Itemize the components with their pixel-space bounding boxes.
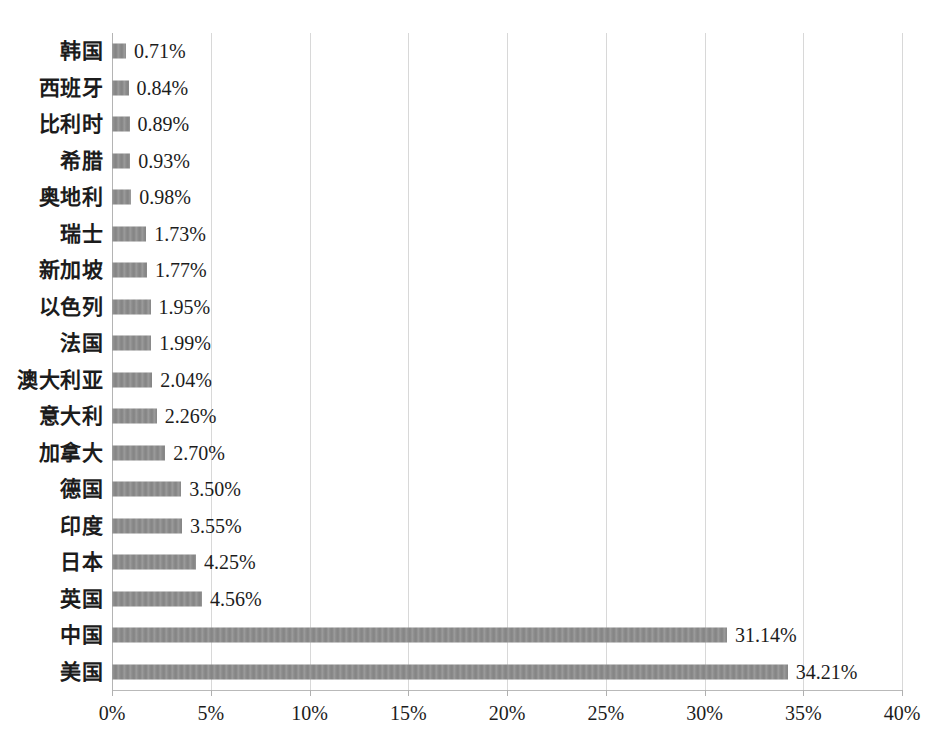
category-label: 印度 <box>0 514 103 538</box>
category-label: 意大利 <box>0 404 103 428</box>
x-tick-label: 10% <box>270 700 350 726</box>
bar-row: 韩国0.71% <box>0 33 946 70</box>
category-label: 西班牙 <box>0 76 103 100</box>
tick-mark-15% <box>408 690 409 696</box>
tick-mark-30% <box>705 690 706 696</box>
x-tick-label: 25% <box>566 700 646 726</box>
bar-value-label: 0.84% <box>137 77 189 99</box>
bar-value-label: 2.70% <box>173 442 225 464</box>
bar-value-label: 1.77% <box>155 259 207 281</box>
tick-mark-35% <box>803 690 804 696</box>
tick-mark-5% <box>211 690 212 696</box>
bar-row: 以色列1.95% <box>0 289 946 326</box>
bar <box>112 190 131 205</box>
category-label: 以色列 <box>0 295 103 319</box>
category-label: 希腊 <box>0 149 103 173</box>
bar-value-label: 4.25% <box>204 551 256 573</box>
bar-row: 奥地利0.98% <box>0 179 946 216</box>
bar-row: 德国3.50% <box>0 471 946 508</box>
bar-row: 英国4.56% <box>0 581 946 618</box>
category-label: 中国 <box>0 623 103 647</box>
x-tick-label: 5% <box>171 700 251 726</box>
category-label: 瑞士 <box>0 222 103 246</box>
tick-mark-40% <box>902 690 903 696</box>
bar <box>112 263 147 278</box>
bar <box>112 117 130 132</box>
bar-value-label: 4.56% <box>210 588 262 610</box>
x-tick-label: 30% <box>665 700 745 726</box>
category-label: 德国 <box>0 477 103 501</box>
bar-row: 法国1.99% <box>0 325 946 362</box>
x-tick-label: 35% <box>763 700 843 726</box>
bar <box>112 299 151 314</box>
bar <box>112 226 146 241</box>
bar-row: 比利时0.89% <box>0 106 946 143</box>
bar <box>112 482 181 497</box>
bar-value-label: 2.04% <box>160 369 212 391</box>
category-label: 比利时 <box>0 112 103 136</box>
bar-row: 美国34.21% <box>0 654 946 691</box>
tick-mark-10% <box>310 690 311 696</box>
category-label: 日本 <box>0 550 103 574</box>
bar-value-label: 0.93% <box>138 150 190 172</box>
bar-row: 中国31.14% <box>0 617 946 654</box>
bar <box>112 409 157 424</box>
category-label: 美国 <box>0 660 103 684</box>
bar-value-label: 3.55% <box>190 515 242 537</box>
x-axis-tick-labels: 0%5%10%15%20%25%30%35%40% <box>0 700 946 732</box>
bar-row: 印度3.55% <box>0 508 946 545</box>
bar-value-label: 0.71% <box>134 40 186 62</box>
bar <box>112 518 182 533</box>
category-label: 奥地利 <box>0 185 103 209</box>
bar <box>112 591 202 606</box>
bar-value-label: 3.50% <box>189 478 241 500</box>
x-axis-tick-marks <box>0 690 946 697</box>
x-tick-label: 20% <box>467 700 547 726</box>
bar-row: 加拿大2.70% <box>0 435 946 472</box>
category-label: 韩国 <box>0 39 103 63</box>
x-tick-label: 15% <box>368 700 448 726</box>
bar <box>112 44 126 59</box>
bar-value-label: 1.73% <box>154 223 206 245</box>
bar <box>112 555 196 570</box>
bar-row: 新加坡1.77% <box>0 252 946 289</box>
bar-row: 澳大利亚2.04% <box>0 362 946 399</box>
bar-row: 瑞士1.73% <box>0 216 946 253</box>
category-label: 法国 <box>0 331 103 355</box>
bar-value-label: 2.26% <box>165 405 217 427</box>
bar-row: 西班牙0.84% <box>0 70 946 107</box>
category-label: 英国 <box>0 587 103 611</box>
bar <box>112 664 788 679</box>
bar-value-label: 0.89% <box>138 113 190 135</box>
x-tick-label: 40% <box>862 700 942 726</box>
bar-row: 希腊0.93% <box>0 143 946 180</box>
category-label: 新加坡 <box>0 258 103 282</box>
bar-rows: 韩国0.71%西班牙0.84%比利时0.89%希腊0.93%奥地利0.98%瑞士… <box>0 33 946 690</box>
bar-value-label: 34.21% <box>796 661 858 683</box>
bar-value-label: 1.95% <box>159 296 211 318</box>
bar <box>112 80 129 95</box>
bar <box>112 445 165 460</box>
bar-chart: 韩国0.71%西班牙0.84%比利时0.89%希腊0.93%奥地利0.98%瑞士… <box>0 0 946 741</box>
category-label: 加拿大 <box>0 441 103 465</box>
bar <box>112 336 151 351</box>
tick-mark-25% <box>606 690 607 696</box>
tick-mark-20% <box>507 690 508 696</box>
bar <box>112 628 727 643</box>
category-label: 澳大利亚 <box>0 368 103 392</box>
x-tick-label: 0% <box>72 700 152 726</box>
bar-value-label: 1.99% <box>159 332 211 354</box>
bar-row: 意大利2.26% <box>0 398 946 435</box>
bar-value-label: 0.98% <box>139 186 191 208</box>
bar-row: 日本4.25% <box>0 544 946 581</box>
bar <box>112 153 130 168</box>
bar-value-label: 31.14% <box>735 624 797 646</box>
tick-mark-0% <box>112 690 113 696</box>
bar <box>112 372 152 387</box>
